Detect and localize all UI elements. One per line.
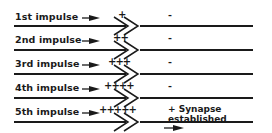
impulse-label: 1st impulse xyxy=(15,11,78,22)
impulse-label: 3rd impulse xyxy=(15,58,80,69)
result-marker: - xyxy=(168,80,172,91)
arrow-right-icon xyxy=(82,37,100,45)
double-chevron-icon xyxy=(112,109,146,133)
arrow-right-icon xyxy=(82,109,100,117)
arrow-right-icon xyxy=(82,61,100,69)
impulse-label: 2nd impulse xyxy=(15,34,82,45)
impulse-label: 4th impulse xyxy=(15,82,79,93)
arrow-right-icon xyxy=(82,85,100,93)
postsynaptic-line xyxy=(140,121,253,123)
transmission-arrow-icon xyxy=(164,124,184,132)
result-marker: - xyxy=(168,56,172,67)
result-marker: - xyxy=(168,9,172,20)
result-marker: - xyxy=(168,32,172,43)
impulse-label: 5th impulse xyxy=(15,106,79,117)
presynaptic-line xyxy=(14,121,126,123)
arrow-right-icon xyxy=(82,14,100,22)
